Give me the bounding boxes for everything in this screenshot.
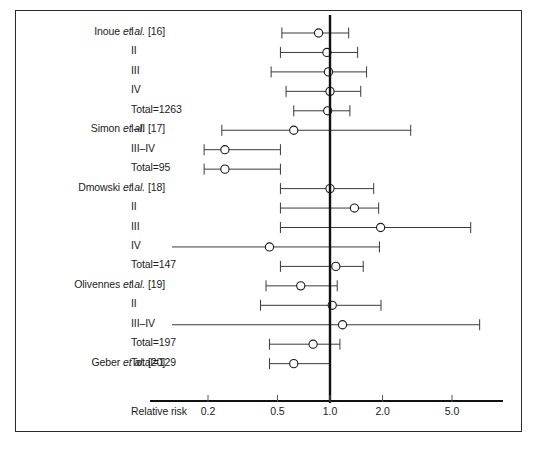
row-stage-label: II xyxy=(131,44,137,56)
row-stage-label: Total=147 xyxy=(131,258,176,270)
study-label: Dmowski et al. [18] xyxy=(78,181,165,193)
x-axis-tick-label: 0.5 xyxy=(270,405,284,417)
row-stage-label: II xyxy=(131,297,137,309)
row-stage-label: III xyxy=(131,220,139,232)
x-axis-tick-label: 1.0 xyxy=(323,405,337,417)
study-label: Simon et al. [17] xyxy=(91,122,165,134)
study-label: Olivennes et al. [19] xyxy=(74,278,165,290)
forest-plot-labels: IInoue et al. [16]IIIIIIVTotal=1263I–IIS… xyxy=(0,0,537,449)
row-stage-label: IV xyxy=(131,239,141,251)
forest-plot-figure: IInoue et al. [16]IIIIIIVTotal=1263I–IIS… xyxy=(0,0,537,449)
x-axis-tick-label: 0.2 xyxy=(201,405,215,417)
row-stage-label: Total=95 xyxy=(131,161,170,173)
study-label: Geber et al. [20] xyxy=(91,356,165,368)
row-stage-label: II xyxy=(131,200,137,212)
row-stage-label: III–IV xyxy=(131,317,155,329)
x-axis-title: Relative risk xyxy=(131,405,187,417)
study-label: Inoue et al. [16] xyxy=(94,25,165,37)
x-axis-tick-label: 5.0 xyxy=(445,405,459,417)
x-axis-tick-label: 2.0 xyxy=(375,405,389,417)
row-stage-label: IV xyxy=(131,83,141,95)
row-stage-label: III–IV xyxy=(131,142,155,154)
row-stage-label: Total=1263 xyxy=(131,103,182,115)
row-stage-label: III xyxy=(131,64,139,76)
row-stage-label: Total=197 xyxy=(131,336,176,348)
